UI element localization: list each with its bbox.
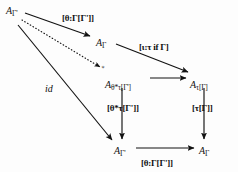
edge-label-identity: id xyxy=(45,84,53,94)
node-subscript: Γ' xyxy=(12,9,17,18)
node-subscript: τ[Γ] xyxy=(196,83,208,92)
commutative-diagram: AΓ' AΓ Aθ*τ[Γ'] Aτ[Γ] AΓ' AΓ [θ:Γ[Γ']] ∗… xyxy=(0,0,238,172)
edge-label-dotted-diagonal: ∗ xyxy=(101,64,105,70)
edge-label-left-vertical: [θ*τ[Γ']] xyxy=(107,104,139,113)
node-a-gamma-bottom: AΓ xyxy=(199,146,209,158)
node-subscript: θ*τ[Γ'] xyxy=(111,83,131,92)
node-subscript: Γ xyxy=(205,149,209,158)
node-subscript: Γ' xyxy=(120,149,125,158)
node-a-gamma-top: AΓ xyxy=(96,38,106,50)
edge-label-right-vertical: [τ[Γ]] xyxy=(192,104,213,113)
edge-label-bottom-theta: [θ:Γ[Γ']] xyxy=(141,159,173,168)
node-a-gamma-prime-bottom: AΓ' xyxy=(114,146,125,158)
edge-label-tau-type-formation: [ι:τ if Γ] xyxy=(139,43,169,52)
node-subscript: Γ xyxy=(102,41,106,50)
node-a-tau-gamma: Aτ[Γ] xyxy=(190,80,208,92)
edge-label-top-theta: [θ:Γ[Γ']] xyxy=(62,14,94,23)
node-a-gamma-prime-top: AΓ' xyxy=(6,6,17,18)
node-a-theta-star-tau-gamma-prime: Aθ*τ[Γ'] xyxy=(105,80,131,92)
